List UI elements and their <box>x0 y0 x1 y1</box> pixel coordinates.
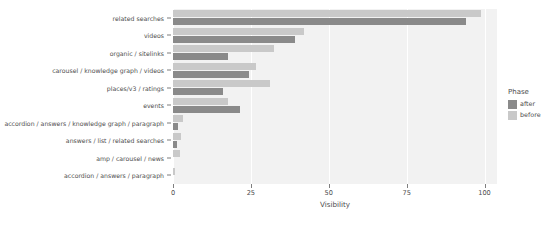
bar-before <box>173 10 481 17</box>
y-tick-label: carousel / knowledge graph / videos <box>52 67 164 74</box>
y-tick-mark <box>167 17 171 18</box>
bar-group <box>173 9 497 27</box>
bar-before <box>173 63 256 70</box>
bar-group <box>173 44 497 62</box>
legend-swatch-icon <box>508 111 517 120</box>
bar-before <box>173 98 228 105</box>
x-tick-label: 25 <box>247 189 255 198</box>
bar-group <box>173 114 497 132</box>
bar-group <box>173 97 497 115</box>
y-tick-mark <box>167 157 171 158</box>
y-tick-label: related searches <box>113 14 164 21</box>
bar-after <box>173 18 466 25</box>
y-tick-label: organic / sitelinks <box>110 49 164 56</box>
legend-entry-after[interactable]: after <box>508 99 554 109</box>
x-tick-label: 75 <box>402 189 410 198</box>
x-axis: Visibility 0255075100 <box>173 184 497 214</box>
y-tick-mark <box>167 87 171 88</box>
plot-area <box>173 9 497 184</box>
bar-group <box>173 149 497 167</box>
x-tick-label: 0 <box>171 189 175 198</box>
x-tick-mark <box>485 184 486 188</box>
legend-label: after <box>520 100 535 109</box>
bar-after <box>173 53 228 60</box>
y-tick-label: answers / list / related searches <box>66 137 164 144</box>
legend-swatch-icon <box>508 100 517 109</box>
y-tick-label: accordion / answers / knowledge graph / … <box>4 119 164 126</box>
bar-before <box>173 133 181 140</box>
bar-after <box>173 71 249 78</box>
bar-group <box>173 167 497 185</box>
bar-after <box>173 88 223 95</box>
x-tick-mark <box>173 184 174 188</box>
legend-entry-before[interactable]: before <box>508 110 554 120</box>
bar-before <box>173 150 180 157</box>
legend-title: Phase <box>508 88 554 97</box>
y-tick-mark <box>167 105 171 106</box>
bar-before <box>173 45 274 52</box>
y-tick-label: places/v3 / ratings <box>107 84 164 91</box>
x-tick-mark <box>329 184 330 188</box>
x-tick-mark <box>251 184 252 188</box>
bar-group <box>173 132 497 150</box>
y-tick-mark <box>167 70 171 71</box>
y-axis: related searchesvideosorganic / sitelink… <box>0 9 173 184</box>
bar-group <box>173 27 497 45</box>
bar-group <box>173 62 497 80</box>
bar-before <box>173 168 175 175</box>
y-tick-label: videos <box>144 32 164 39</box>
y-tick-mark <box>167 122 171 123</box>
x-tick-mark <box>407 184 408 188</box>
x-tick-label: 100 <box>478 189 491 198</box>
bar-after <box>173 123 178 130</box>
bar-group <box>173 79 497 97</box>
legend-entries: afterbefore <box>508 99 554 120</box>
bar-before <box>173 28 304 35</box>
y-tick-mark <box>167 52 171 53</box>
x-axis-title: Visibility <box>173 200 497 209</box>
bar-after <box>173 36 295 43</box>
bar-after <box>173 141 177 148</box>
legend-label: before <box>520 111 541 120</box>
y-tick-label: events <box>143 102 164 109</box>
y-tick-mark <box>167 35 171 36</box>
x-tick-label: 50 <box>325 189 333 198</box>
bar-before <box>173 80 270 87</box>
bar-before <box>173 115 183 122</box>
bar-after <box>173 106 240 113</box>
y-tick-label: amp / carousel / news <box>96 154 164 161</box>
legend: Phase afterbefore <box>508 88 554 121</box>
y-tick-mark <box>167 175 171 176</box>
y-tick-label: accordion / answers / paragraph <box>64 172 164 179</box>
y-tick-mark <box>167 140 171 141</box>
bar-chart: related searchesvideosorganic / sitelink… <box>0 0 556 226</box>
